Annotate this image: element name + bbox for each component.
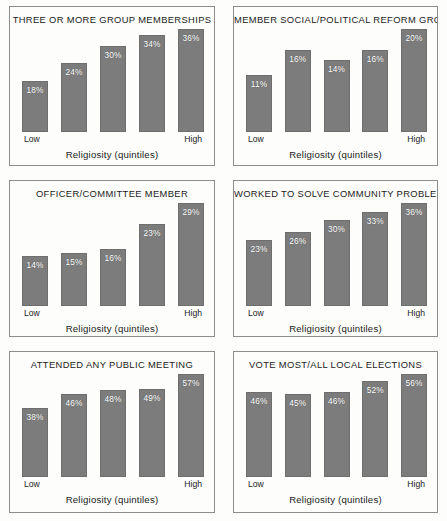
bar: 11% bbox=[246, 75, 272, 132]
x-axis-title: Religiosity (quintiles) bbox=[10, 149, 214, 160]
chart-panel: MEMBER SOCIAL/POLITICAL REFORM GROUP11%1… bbox=[233, 6, 438, 166]
bar-group: 23%26%30%33%36% bbox=[246, 203, 427, 306]
bar-value-label: 46% bbox=[328, 396, 345, 406]
bar-value-label: 23% bbox=[143, 228, 160, 238]
bar-value-label: 29% bbox=[182, 207, 199, 217]
bar-value-label: 36% bbox=[182, 33, 199, 43]
bar: 45% bbox=[285, 394, 311, 477]
x-axis-end-labels: LowHigh bbox=[22, 479, 204, 491]
bar-value-label: 16% bbox=[289, 54, 306, 64]
bar-value-label: 11% bbox=[251, 79, 268, 89]
x-axis-title: Religiosity (quintiles) bbox=[234, 323, 437, 334]
panel-title: WORKED TO SOLVE COMMUNITY PROBLEM bbox=[234, 188, 437, 199]
x-axis-label-low: Low bbox=[24, 308, 40, 318]
x-axis-end-labels: LowHigh bbox=[246, 308, 427, 320]
x-axis-label-low: Low bbox=[24, 134, 40, 144]
panel-cell: ATTENDED ANY PUBLIC MEETING38%46%48%49%5… bbox=[0, 345, 224, 521]
x-axis-label-low: Low bbox=[248, 479, 264, 489]
chart-panel: OFFICER/COMMITTEE MEMBER14%15%16%23%29%L… bbox=[9, 180, 215, 337]
chart-panel: VOTE MOST/ALL LOCAL ELECTIONS46%45%46%52… bbox=[233, 351, 438, 513]
panel-cell: THREE OR MORE GROUP MEMBERSHIPS18%24%30%… bbox=[0, 0, 224, 174]
bar-group: 46%45%46%52%56% bbox=[246, 374, 427, 477]
x-axis-end-labels: LowHigh bbox=[22, 134, 204, 146]
panel-title: VOTE MOST/ALL LOCAL ELECTIONS bbox=[234, 359, 437, 370]
bar: 15% bbox=[61, 253, 87, 306]
bar: 16% bbox=[100, 249, 126, 306]
bar: 23% bbox=[246, 240, 272, 306]
bar: 36% bbox=[401, 203, 427, 306]
x-axis-label-high: High bbox=[407, 308, 425, 318]
bar-value-label: 18% bbox=[26, 85, 43, 95]
bar-value-label: 23% bbox=[250, 244, 267, 254]
x-axis-title: Religiosity (quintiles) bbox=[234, 494, 437, 505]
bar-value-label: 45% bbox=[289, 398, 306, 408]
bar-chart-panel-grid: THREE OR MORE GROUP MEMBERSHIPS18%24%30%… bbox=[0, 0, 447, 521]
bar-value-label: 46% bbox=[250, 396, 267, 406]
panel-title: OFFICER/COMMITTEE MEMBER bbox=[10, 188, 214, 199]
bar-value-label: 52% bbox=[367, 385, 384, 395]
x-axis-label-low: Low bbox=[248, 134, 264, 144]
plot-area: 14%15%16%23%29% bbox=[22, 203, 204, 306]
bar: 46% bbox=[246, 392, 272, 477]
bar: 46% bbox=[61, 394, 87, 477]
x-axis-label-low: Low bbox=[24, 479, 40, 489]
bar-value-label: 38% bbox=[26, 412, 43, 422]
bar: 52% bbox=[362, 381, 388, 477]
bar: 34% bbox=[139, 35, 165, 132]
x-axis-title: Religiosity (quintiles) bbox=[10, 323, 214, 334]
bar-value-label: 30% bbox=[328, 224, 345, 234]
panel-cell: WORKED TO SOLVE COMMUNITY PROBLEM23%26%3… bbox=[224, 174, 447, 345]
bar-value-label: 46% bbox=[65, 398, 82, 408]
panel-cell: VOTE MOST/ALL LOCAL ELECTIONS46%45%46%52… bbox=[224, 345, 447, 521]
plot-area: 23%26%30%33%36% bbox=[246, 203, 427, 306]
x-axis-title: Religiosity (quintiles) bbox=[10, 494, 214, 505]
panel-title: ATTENDED ANY PUBLIC MEETING bbox=[10, 359, 214, 370]
chart-panel: THREE OR MORE GROUP MEMBERSHIPS18%24%30%… bbox=[9, 6, 215, 166]
bar: 30% bbox=[324, 220, 350, 306]
bar-group: 38%46%48%49%57% bbox=[22, 374, 204, 477]
bar: 56% bbox=[401, 374, 427, 477]
bar-value-label: 14% bbox=[26, 260, 43, 270]
bar-value-label: 20% bbox=[405, 33, 422, 43]
x-axis-end-labels: LowHigh bbox=[22, 308, 204, 320]
bar-value-label: 15% bbox=[65, 257, 82, 267]
x-axis-end-labels: LowHigh bbox=[246, 134, 427, 146]
x-axis-title: Religiosity (quintiles) bbox=[234, 149, 437, 160]
bar-value-label: 14% bbox=[328, 64, 345, 74]
x-axis-label-high: High bbox=[184, 479, 202, 489]
bar-value-label: 36% bbox=[405, 207, 422, 217]
x-axis-label-high: High bbox=[184, 134, 202, 144]
bar: 20% bbox=[401, 29, 427, 132]
bar-value-label: 49% bbox=[143, 393, 160, 403]
x-axis-end-labels: LowHigh bbox=[246, 479, 427, 491]
chart-panel: ATTENDED ANY PUBLIC MEETING38%46%48%49%5… bbox=[9, 351, 215, 513]
bar: 16% bbox=[285, 50, 311, 132]
x-axis-label-high: High bbox=[407, 479, 425, 489]
plot-area: 11%16%14%16%20% bbox=[246, 29, 427, 132]
bar-value-label: 56% bbox=[405, 378, 422, 388]
bar-value-label: 16% bbox=[367, 54, 384, 64]
bar: 29% bbox=[178, 203, 204, 306]
bar-value-label: 16% bbox=[104, 253, 121, 263]
bar: 57% bbox=[178, 374, 204, 477]
bar: 23% bbox=[139, 224, 165, 306]
panel-title: MEMBER SOCIAL/POLITICAL REFORM GROUP bbox=[234, 14, 437, 25]
bar: 14% bbox=[22, 256, 48, 306]
plot-area: 38%46%48%49%57% bbox=[22, 374, 204, 477]
bar: 48% bbox=[100, 390, 126, 477]
bar: 26% bbox=[285, 232, 311, 306]
bar: 49% bbox=[139, 389, 165, 478]
bar: 33% bbox=[362, 212, 388, 306]
x-axis-label-high: High bbox=[407, 134, 425, 144]
bar: 30% bbox=[100, 46, 126, 132]
bar-value-label: 48% bbox=[104, 394, 121, 404]
bar-value-label: 26% bbox=[289, 236, 306, 246]
bar: 36% bbox=[178, 29, 204, 132]
bar-value-label: 30% bbox=[104, 50, 121, 60]
panel-cell: MEMBER SOCIAL/POLITICAL REFORM GROUP11%1… bbox=[224, 0, 447, 174]
chart-panel: WORKED TO SOLVE COMMUNITY PROBLEM23%26%3… bbox=[233, 180, 438, 337]
bar-value-label: 57% bbox=[182, 378, 199, 388]
plot-area: 18%24%30%34%36% bbox=[22, 29, 204, 132]
plot-area: 46%45%46%52%56% bbox=[246, 374, 427, 477]
bar: 14% bbox=[324, 60, 350, 132]
